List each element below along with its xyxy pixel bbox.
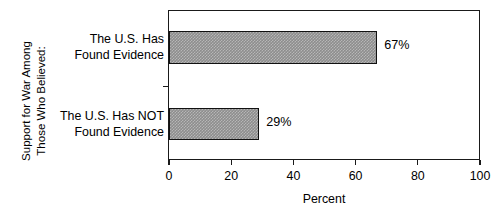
bar-not-found-evidence [169, 108, 259, 140]
value-label-not-found-evidence: 29% [266, 115, 291, 129]
y-axis-title-line-1: Support for War Among [19, 41, 34, 161]
category-label-not-found-evidence: The U.S. Has NOT Found Evidence [40, 108, 164, 140]
x-axis-tick [355, 160, 356, 165]
x-axis-title: Percent [168, 192, 480, 207]
x-axis-tick-label: 20 [209, 169, 253, 183]
x-axis-tick-label: 80 [396, 169, 440, 183]
x-axis-tick [293, 160, 294, 165]
x-axis-tick-label: 0 [147, 169, 191, 183]
bar-found-evidence [169, 31, 377, 64]
category-label-line-1: The U.S. Has [40, 31, 164, 47]
category-label-line-1: The U.S. Has NOT [40, 108, 164, 124]
x-axis-tick-label: 40 [271, 169, 315, 183]
value-label-found-evidence: 67% [384, 38, 409, 52]
y-axis-tick [163, 86, 168, 87]
category-label-line-2: Found Evidence [40, 47, 164, 63]
x-axis-tick-label: 100 [458, 169, 499, 183]
x-axis-tick-label: 60 [334, 169, 378, 183]
x-axis-tick [417, 160, 418, 165]
category-label-line-2: Found Evidence [40, 124, 164, 140]
category-label-found-evidence: The U.S. Has Found Evidence [40, 31, 164, 63]
x-axis-tick [231, 160, 232, 165]
x-axis-tick [479, 160, 480, 165]
bar-chart: Support for War Among Those Who Believed… [0, 0, 499, 218]
x-axis-tick [168, 160, 169, 165]
